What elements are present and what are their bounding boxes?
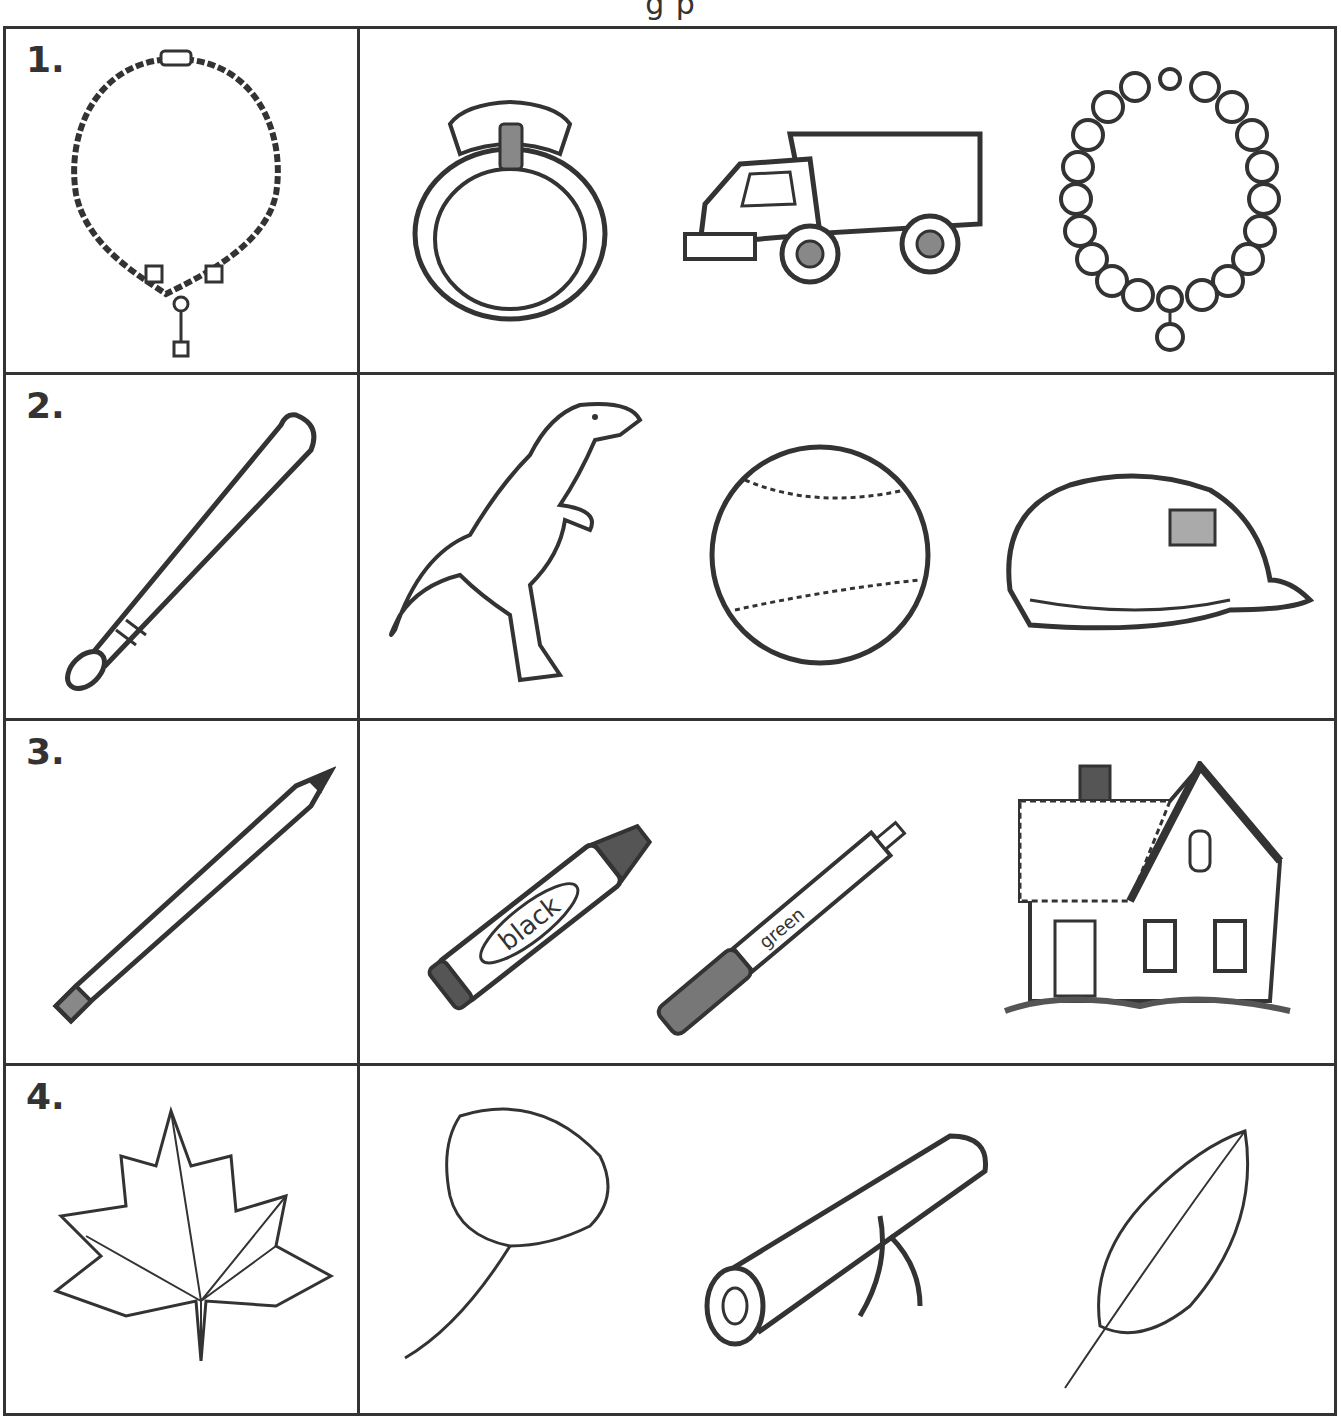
dinosaur-icon[interactable] [380, 395, 650, 705]
marker-icon[interactable]: green [610, 791, 950, 1061]
dump-truck-icon[interactable] [680, 124, 990, 294]
ring-icon[interactable] [410, 94, 610, 324]
leaf-icon[interactable] [1060, 1126, 1260, 1396]
ginkgo-leaf-icon[interactable] [400, 1096, 630, 1366]
worksheet-instructions-cropped: g p [0, 0, 1341, 21]
target-cell-2: 2. [6, 375, 360, 718]
baseball-bat-icon[interactable] [46, 405, 326, 695]
baseball-icon[interactable] [705, 440, 935, 670]
row-4: 4. [6, 1066, 1334, 1416]
pencil-icon[interactable] [46, 766, 336, 1026]
necklace-icon[interactable] [56, 44, 296, 364]
target-cell-1: 1. [6, 29, 360, 372]
cap-icon[interactable] [990, 460, 1320, 640]
row-3: 3. black [6, 721, 1334, 1066]
log-icon[interactable] [690, 1116, 1000, 1356]
choices-cell-4 [360, 1066, 1334, 1416]
row-1: 1. [6, 29, 1334, 375]
house-icon[interactable] [1000, 761, 1300, 1051]
worksheet-grid: 1. [3, 26, 1337, 1416]
bracelet-icon[interactable] [1050, 59, 1290, 359]
maple-leaf-icon[interactable] [46, 1106, 336, 1366]
choices-cell-1 [360, 29, 1334, 372]
target-cell-4: 4. [6, 1066, 360, 1416]
choices-cell-3: black green [360, 721, 1334, 1063]
row-2: 2. [6, 375, 1334, 721]
choices-cell-2 [360, 375, 1334, 718]
target-cell-3: 3. [6, 721, 360, 1063]
